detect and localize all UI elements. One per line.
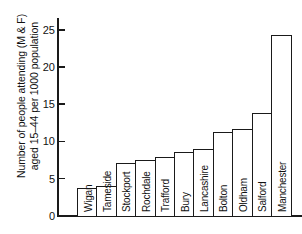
bar: Trafford [155, 157, 176, 216]
bar: Salford [252, 113, 273, 216]
bar: Bolton [213, 132, 234, 216]
bar-series: WiganTamesideStockportRochdaleTraffordBu… [77, 19, 290, 216]
y-tick-25: 25 [59, 29, 65, 31]
y-tick-10: 10 [59, 141, 65, 143]
y-axis-title-line-2: aged 15–44 per 1000 population [28, 22, 41, 170]
y-axis-title: Number of people attending (M & F) aged … [11, 0, 45, 198]
bar: Rochdale [135, 160, 156, 216]
bar-label: Salford [257, 182, 268, 212]
bar: Oldham [232, 129, 253, 216]
bar-label: Bury [179, 192, 190, 212]
y-tick-label: 0 [49, 210, 55, 222]
y-tick-20: 20 [59, 66, 65, 68]
y-tick-label: 20 [43, 61, 55, 73]
bar-label: Stockport [121, 172, 132, 212]
bar-label: Tameside [101, 171, 112, 212]
y-tick-15: 15 [59, 103, 65, 105]
bar-label: Wigan [82, 185, 93, 212]
y-axis-line [57, 18, 59, 217]
y-tick-label: 15 [43, 98, 55, 110]
y-tick-label: 5 [49, 173, 55, 185]
bar-label: Oldham [237, 178, 248, 212]
bar-chart: Number of people attending (M & F) aged … [0, 0, 302, 234]
bar-label: Bolton [218, 185, 229, 212]
y-tick-label: 25 [43, 24, 55, 36]
bar: Wigan [77, 188, 98, 216]
y-tick-0: 0 [59, 215, 65, 217]
y-axis-title-line-1: Number of people attending (M & F) [15, 14, 28, 178]
y-tick-5: 5 [59, 178, 65, 180]
bar: Tameside [96, 186, 117, 216]
plot-area: 0510152025 WiganTamesideStockportRochdal… [57, 18, 302, 218]
y-tick-label: 10 [43, 135, 55, 147]
bar-label: Trafford [160, 179, 171, 212]
bar: Manchester [271, 35, 292, 216]
bar: Stockport [116, 163, 137, 216]
bar: Bury [174, 152, 195, 216]
bar-label: Manchester [276, 162, 287, 212]
bar-label: Lancashire [198, 165, 209, 212]
bar-label: Rochdale [140, 171, 151, 212]
bar: Lancashire [193, 149, 214, 216]
